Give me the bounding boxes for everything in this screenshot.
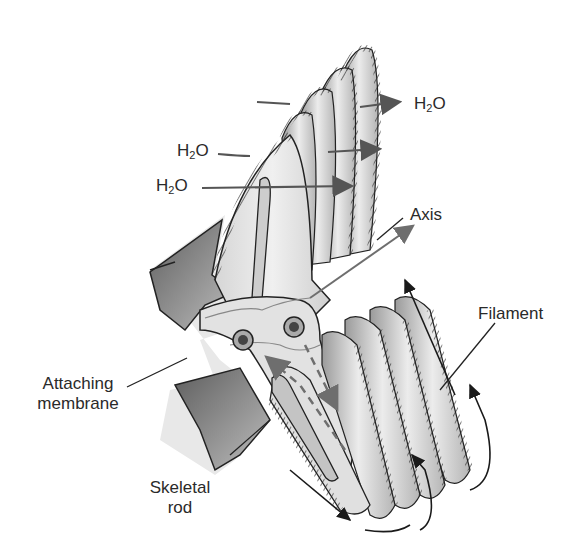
label-attaching-membrane-line1: Attaching: [28, 374, 128, 394]
label-h2o-in-upper: H2O: [177, 141, 209, 165]
label-h2o-out: H2O: [414, 94, 446, 118]
label-attaching-membrane-line2: membrane: [28, 394, 128, 414]
gill-diagram: H2O H2O H2O Axis Filament Attaching memb…: [0, 0, 584, 551]
h2o-o: O: [432, 94, 445, 113]
label-attaching-membrane: Attaching membrane: [28, 374, 128, 414]
h2o-h: H: [177, 141, 189, 160]
h2o-h: H: [156, 176, 168, 195]
label-skeletal-rod: Skeletal rod: [140, 478, 220, 518]
gill-illustration: [0, 0, 584, 551]
label-axis: Axis: [410, 205, 442, 225]
label-h2o-in-lower: H2O: [156, 176, 188, 200]
label-filament: Filament: [478, 304, 543, 324]
h2o-o: O: [174, 176, 187, 195]
h2o-h: H: [414, 94, 426, 113]
label-skeletal-rod-line2: rod: [140, 498, 220, 518]
label-skeletal-rod-line1: Skeletal: [140, 478, 220, 498]
h2o-o: O: [195, 141, 208, 160]
